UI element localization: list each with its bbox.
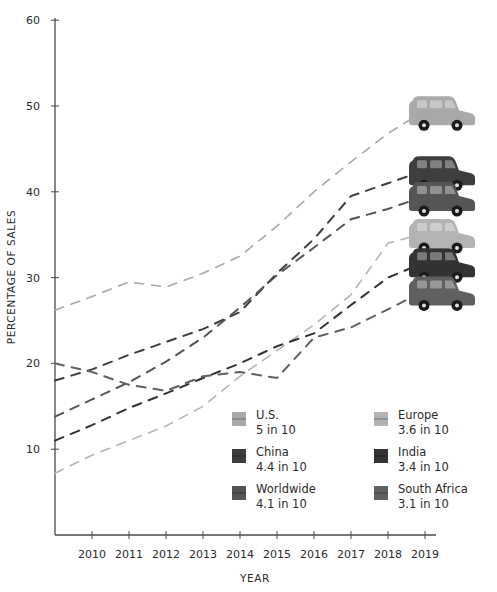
x-tick-label: 2015 xyxy=(263,548,291,561)
car-icon xyxy=(409,276,475,311)
legend-label: Worldwide xyxy=(256,482,316,497)
x-tick-label: 2019 xyxy=(411,548,439,561)
x-tick-label: 2017 xyxy=(337,548,365,561)
x-tick-label: 2014 xyxy=(226,548,254,561)
series-line-u-s xyxy=(55,110,425,310)
series-line-china xyxy=(55,170,425,380)
legend-item-europe: Europe 3.6 in 10 xyxy=(374,408,497,444)
x-tick-label: 2013 xyxy=(189,548,217,561)
y-tick-label: 60 xyxy=(26,14,40,27)
y-ticks: 102030405060 xyxy=(26,14,59,456)
legend-value: 3.1 in 10 xyxy=(398,497,449,512)
series-line-worldwide xyxy=(55,196,425,417)
legend-swatch-us xyxy=(232,412,246,426)
y-tick-label: 50 xyxy=(26,100,40,113)
legend-label: South Africa xyxy=(398,482,468,497)
legend-value: 3.6 in 10 xyxy=(398,423,449,438)
legend-value: 3.4 in 10 xyxy=(398,460,449,475)
y-tick-label: 30 xyxy=(26,272,40,285)
legend-swatch-worldwide xyxy=(232,486,246,500)
legend-label: China xyxy=(256,445,289,460)
y-axis-title: PERCENTAGE OF SALES xyxy=(5,210,17,345)
x-tick-label: 2011 xyxy=(115,548,143,561)
legend-value: 4.1 in 10 xyxy=(256,497,307,512)
car-icon xyxy=(409,182,475,217)
legend-item-india: India 3.4 in 10 xyxy=(374,445,497,481)
x-tick-label: 2018 xyxy=(374,548,402,561)
x-tick-label: 2010 xyxy=(78,548,106,561)
legend-item-worldwide: Worldwide 4.1 in 10 xyxy=(232,482,362,518)
legend-swatch-china xyxy=(232,449,246,463)
legend-swatch-india xyxy=(374,449,388,463)
y-tick-label: 10 xyxy=(26,443,40,456)
legend-value: 4.4 in 10 xyxy=(256,460,307,475)
legend-label: Europe xyxy=(398,408,438,423)
legend-swatch-europe xyxy=(374,412,388,426)
legend-item-south-africa: South Africa 3.1 in 10 xyxy=(374,482,497,518)
legend-label: India xyxy=(398,445,426,460)
car-icon xyxy=(409,96,475,131)
y-tick-label: 40 xyxy=(26,186,40,199)
x-tick-label: 2016 xyxy=(300,548,328,561)
car-markers xyxy=(409,96,475,311)
x-axis-title: YEAR xyxy=(239,572,270,584)
legend-item-us: U.S. 5 in 10 xyxy=(232,408,362,444)
legend-label: U.S. xyxy=(256,408,279,423)
x-tick-label: 2012 xyxy=(152,548,180,561)
legend-swatch-south-africa xyxy=(374,486,388,500)
y-tick-label: 20 xyxy=(26,357,40,370)
legend-value: 5 in 10 xyxy=(256,423,296,438)
legend-item-china: China 4.4 in 10 xyxy=(232,445,362,481)
